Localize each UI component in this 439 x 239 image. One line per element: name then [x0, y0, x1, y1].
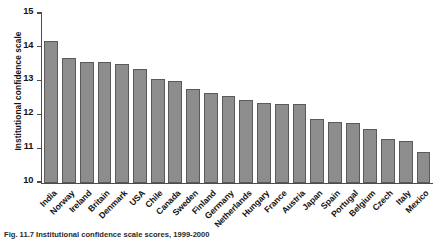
x-axis-line — [41, 183, 433, 184]
figure-container: Institutional confidence scale 101112131… — [0, 0, 439, 239]
x-axis-label: USA — [127, 188, 147, 208]
bar[interactable] — [417, 152, 431, 182]
y-axis-tick-label: 13 — [23, 73, 33, 83]
bar[interactable] — [204, 93, 218, 183]
bar-slot — [291, 14, 309, 183]
bar-slot — [184, 14, 202, 183]
bar-slot — [397, 14, 415, 183]
bar[interactable] — [151, 79, 165, 183]
bar-slot — [113, 14, 131, 183]
bar-slot — [202, 14, 220, 183]
figure-caption: Fig. 11.7 Institutional confidence scale… — [4, 230, 436, 239]
bar-series — [42, 14, 432, 183]
bar-slot — [131, 14, 149, 183]
bar[interactable] — [133, 69, 147, 182]
y-axis-tick: 13 — [37, 80, 42, 81]
bar-slot — [326, 14, 344, 183]
bar-slot — [149, 14, 167, 183]
bar[interactable] — [257, 103, 271, 183]
bar-slot — [220, 14, 238, 183]
y-axis-tick: 15 — [37, 12, 42, 13]
bar[interactable] — [381, 139, 395, 183]
bar-slot — [361, 14, 379, 183]
y-axis-tick: 11 — [37, 148, 42, 149]
bar[interactable] — [328, 122, 342, 182]
bar[interactable] — [80, 62, 94, 183]
bar-slot — [237, 14, 255, 183]
y-axis-tick-label: 11 — [24, 141, 34, 151]
bar-slot — [166, 14, 184, 183]
y-axis-tick: 14 — [37, 46, 42, 47]
bar[interactable] — [168, 81, 182, 182]
bar-slot — [96, 14, 114, 183]
bar[interactable] — [222, 96, 236, 183]
bar-slot — [42, 14, 60, 183]
bar[interactable] — [239, 100, 253, 182]
bar-slot — [344, 14, 362, 183]
bar[interactable] — [44, 41, 58, 183]
bar-slot — [273, 14, 291, 183]
y-axis-tick-label: 12 — [23, 107, 33, 117]
bar[interactable] — [275, 104, 289, 182]
y-axis-tick-label: 15 — [23, 6, 33, 16]
bar-slot — [379, 14, 397, 183]
bar[interactable] — [363, 129, 377, 183]
y-axis-tick: 10 — [37, 181, 42, 182]
bar[interactable] — [186, 89, 200, 182]
bar[interactable] — [346, 123, 360, 182]
bar-slot — [255, 14, 273, 183]
bar[interactable] — [293, 104, 307, 182]
y-axis-tick-label: 14 — [23, 40, 33, 50]
bar-slot — [415, 14, 433, 183]
bar[interactable] — [98, 62, 112, 183]
y-axis-tick: 12 — [37, 114, 42, 115]
bar-slot — [78, 14, 96, 183]
bar-slot — [60, 14, 78, 183]
bar[interactable] — [115, 64, 129, 183]
bar-slot — [308, 14, 326, 183]
y-axis-tick-label: 10 — [23, 175, 33, 185]
plot-area: 101112131415 — [41, 13, 433, 184]
bar[interactable] — [62, 58, 76, 182]
y-axis-title: Institutional confidence scale — [13, 11, 23, 171]
bar[interactable] — [399, 141, 413, 182]
bar[interactable] — [310, 119, 324, 183]
